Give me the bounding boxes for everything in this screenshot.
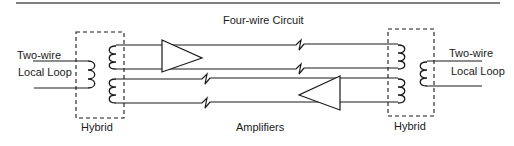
- right-local-loop-label: Local Loop: [451, 65, 505, 77]
- left-two-wire-label: Two-wire: [17, 49, 61, 61]
- left-hybrid-label: Hybrid: [81, 121, 113, 133]
- right-hybrid-box: [388, 29, 434, 116]
- right-transmit-coil-icon: [398, 79, 405, 103]
- four-wire-circuit-diagram: Four-wire Circuit Two-wire Local Loop Hy…: [0, 0, 514, 146]
- left-local-loop-label: Local Loop: [18, 66, 72, 78]
- wire-3: [116, 74, 398, 84]
- wire-4: [116, 98, 398, 108]
- right-loop-coil-icon: [420, 62, 427, 86]
- left-loop-coil-icon: [88, 61, 95, 88]
- amplifiers-label: Amplifiers: [236, 121, 285, 133]
- left-receive-coil-icon: [109, 79, 116, 103]
- right-hybrid-label: Hybrid: [394, 120, 426, 132]
- right-two-wire-label: Two-wire: [449, 47, 493, 59]
- reverse-amplifier-icon: [299, 76, 340, 110]
- wire-2: [116, 64, 398, 74]
- wire-1: [116, 40, 398, 50]
- left-transmit-coil-icon: [109, 46, 116, 69]
- right-receive-coil-icon: [398, 45, 405, 69]
- four-wire-lines: [116, 40, 398, 108]
- four-wire-circuit-title: Four-wire Circuit: [223, 14, 304, 26]
